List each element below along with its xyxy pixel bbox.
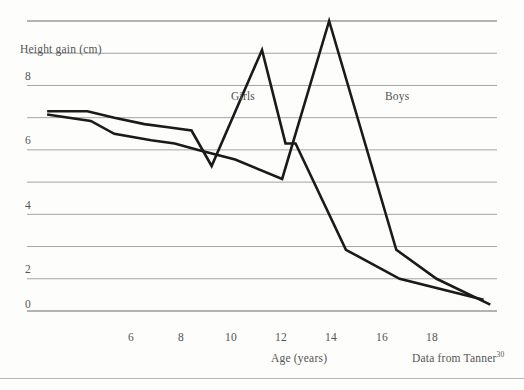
y-tick-label-4: 4 [25, 199, 31, 211]
x-axis-title: Age (years) [271, 352, 327, 364]
x-tick-label-8: 8 [178, 331, 184, 343]
page-divider-rule [0, 378, 524, 379]
y-tick-label-8: 8 [25, 70, 31, 82]
source-note: Data from Tanner30 [412, 352, 504, 364]
y-tick-label-6: 6 [25, 134, 31, 146]
series-label-girls: Girls [231, 90, 255, 102]
gridlines [27, 21, 497, 311]
x-tick-label-6: 6 [128, 331, 134, 343]
series-lines [47, 21, 490, 305]
y-tick-label-0: 0 [25, 298, 31, 310]
y-tick-label-2: 2 [25, 263, 31, 275]
x-tick-label-12: 12 [275, 331, 287, 343]
chart-canvas [0, 0, 524, 390]
x-tick-label-10: 10 [225, 331, 237, 343]
source-note-text: Data from Tanner [412, 352, 497, 364]
x-tick-label-18: 18 [426, 331, 438, 343]
source-note-superscript: 30 [497, 350, 505, 359]
growth-velocity-figure: Height gain (cm) 8 6 4 2 0 6 8 10 12 14 … [0, 0, 524, 390]
curve-girls [47, 50, 483, 300]
series-label-boys: Boys [385, 90, 409, 102]
curve-boys [47, 21, 490, 305]
x-tick-label-16: 16 [376, 331, 388, 343]
y-axis-title: Height gain (cm) [20, 43, 102, 55]
x-tick-label-14: 14 [325, 331, 337, 343]
